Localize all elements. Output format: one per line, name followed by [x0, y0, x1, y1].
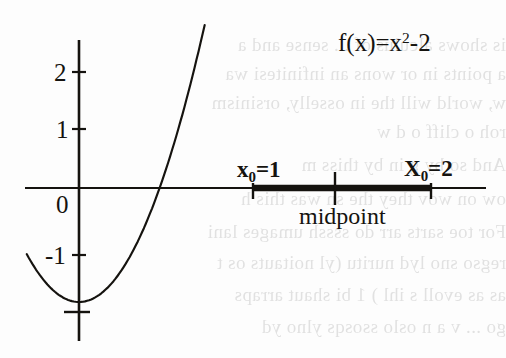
math-figure: is shows alculus of ... sense and a a po… — [0, 0, 506, 358]
curve-helper — [79, 249, 252, 312]
right-endpoint-value: =2 — [428, 156, 453, 181]
function-label-exponent: 2 — [402, 29, 410, 46]
left-endpoint-symbol: x — [237, 157, 249, 182]
function-label-tail: -2 — [410, 29, 431, 56]
midpoint-label: midpoint — [299, 204, 386, 228]
y-tick-label-1: 1 — [56, 117, 69, 142]
function-label-base: f(x)=x — [338, 29, 402, 56]
left-endpoint-label: x0=1 — [237, 158, 281, 185]
function-label: f(x)=x2-2 — [338, 30, 431, 55]
y-tick-label-2: 2 — [54, 60, 67, 85]
right-endpoint-symbol: X — [404, 156, 421, 181]
y-tick-label-minus1: -1 — [45, 243, 66, 268]
y-tick-label-0: 0 — [56, 192, 69, 217]
left-endpoint-subscript: 0 — [249, 169, 256, 185]
right-endpoint-label: X0=2 — [404, 157, 453, 184]
left-endpoint-value: =1 — [256, 157, 281, 182]
right-endpoint-subscript: 0 — [421, 168, 428, 184]
